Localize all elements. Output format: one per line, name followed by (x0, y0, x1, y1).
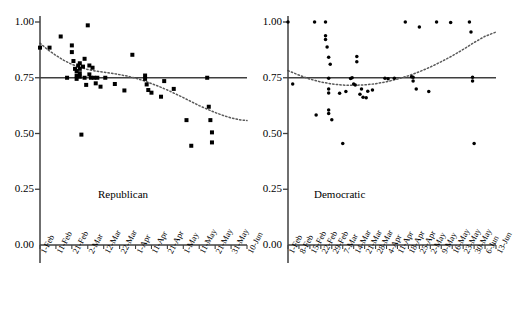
data-point (435, 20, 439, 24)
data-point (354, 83, 358, 87)
data-point (78, 75, 82, 79)
y-tick-label: 0.25 (248, 183, 282, 194)
data-point (86, 23, 90, 27)
data-point (418, 25, 422, 29)
data-point (84, 83, 88, 87)
data-point (330, 118, 334, 122)
data-point (83, 76, 87, 80)
data-point (383, 76, 387, 80)
y-tick-label: 1.00 (248, 16, 282, 27)
data-point (83, 57, 87, 61)
data-point (344, 90, 348, 94)
y-tick-label: 0.50 (0, 128, 34, 139)
data-point (143, 77, 147, 81)
data-point (327, 91, 331, 95)
data-point (207, 105, 211, 109)
data-point (113, 82, 117, 86)
data-point (341, 142, 345, 146)
data-point (324, 38, 328, 42)
data-point (81, 65, 85, 69)
data-point (162, 79, 166, 83)
data-point (327, 112, 331, 116)
data-point (210, 130, 214, 134)
data-point (472, 142, 476, 146)
data-point (91, 66, 95, 70)
data-point (350, 76, 354, 80)
data-point (38, 46, 42, 50)
data-point (159, 95, 163, 99)
data-point (355, 60, 359, 64)
data-point (364, 96, 368, 100)
data-point (469, 30, 473, 34)
data-point (358, 93, 362, 97)
data-point (79, 133, 83, 137)
data-point (149, 91, 153, 95)
data-point (427, 90, 431, 94)
data-point (471, 79, 475, 83)
data-point (313, 20, 317, 24)
data-point (414, 87, 418, 91)
data-point (324, 20, 328, 24)
data-point (324, 34, 328, 38)
data-point (103, 76, 107, 80)
data-point (361, 96, 365, 100)
data-point (393, 76, 397, 80)
data-point (59, 34, 63, 38)
data-point (286, 20, 290, 24)
data-point (172, 87, 176, 91)
data-point (99, 85, 103, 89)
data-point (71, 59, 75, 63)
panel-republican: Republican 1.000.750.500.250.001-Feb11-F… (0, 0, 250, 315)
data-point (328, 63, 332, 67)
data-point (411, 76, 415, 80)
y-tick-label: 0.75 (248, 72, 282, 83)
data-point (122, 88, 126, 92)
data-point (314, 113, 318, 117)
data-point (371, 88, 375, 92)
data-point (205, 76, 209, 80)
republican-plot-svg (0, 0, 250, 315)
data-point (449, 21, 453, 25)
data-point (70, 43, 74, 47)
data-point (70, 50, 74, 54)
data-point (208, 118, 212, 122)
y-tick-label: 0.25 (0, 183, 34, 194)
y-tick-label: 0.50 (248, 128, 282, 139)
data-point (291, 82, 295, 86)
data-point (94, 81, 98, 85)
data-point (327, 108, 331, 112)
data-point (95, 76, 99, 80)
trend-line (40, 43, 247, 120)
y-tick-label: 1.00 (0, 16, 34, 27)
data-point (327, 87, 331, 91)
democratic-plot-svg (251, 0, 501, 315)
data-point (130, 53, 134, 57)
panel-democratic: Democratic 1.000.750.500.250.001-Feb8-Fe… (251, 0, 501, 315)
data-point (411, 79, 415, 83)
data-point (360, 87, 364, 91)
data-point (48, 46, 52, 50)
data-point (404, 20, 408, 24)
panel-label-republican: Republican (98, 188, 148, 200)
y-tick-label: 0.00 (248, 239, 282, 250)
y-tick-label: 0.00 (0, 239, 34, 250)
data-point (184, 118, 188, 122)
data-point (145, 82, 149, 86)
data-point (325, 45, 329, 49)
data-point (366, 89, 370, 93)
data-point (65, 76, 69, 80)
data-point (327, 76, 331, 80)
data-point (468, 20, 472, 24)
data-point (471, 76, 475, 80)
data-point (327, 55, 331, 59)
data-point (338, 92, 342, 96)
panel-label-democratic: Democratic (314, 188, 365, 200)
data-point (355, 55, 359, 59)
data-point (189, 144, 193, 148)
data-point (386, 77, 390, 81)
y-tick-label: 0.75 (0, 72, 34, 83)
data-point (210, 140, 214, 144)
